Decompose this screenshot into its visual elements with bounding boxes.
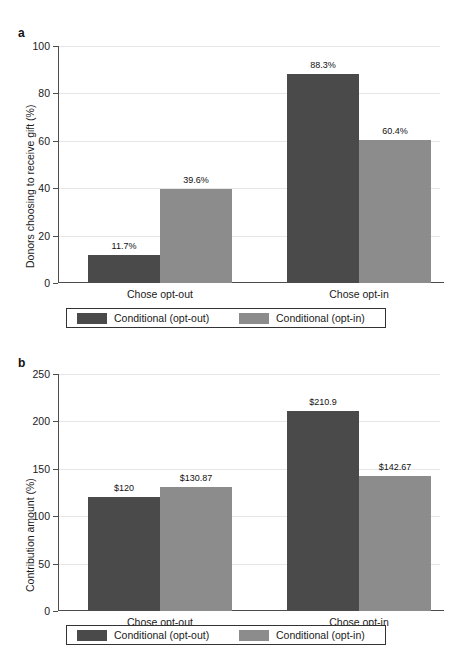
panel-a-category-labels: Chose opt-outChose opt-in xyxy=(58,288,440,302)
legend-item-conditional-opt-in: Conditional (opt-in) xyxy=(239,626,365,644)
y-tick-mark xyxy=(53,46,58,47)
y-tick-label: 100 xyxy=(32,40,50,52)
bar-value-label: 60.4% xyxy=(382,126,408,136)
y-tick-label: 50 xyxy=(38,558,50,570)
legend-swatch-dark-icon xyxy=(77,313,107,324)
bar-value-label: 11.7% xyxy=(112,241,137,251)
bar xyxy=(359,476,431,611)
gridline xyxy=(59,374,440,375)
panel-a-letter: a xyxy=(18,26,25,40)
bar-value-label: $130.87 xyxy=(180,473,213,483)
gridline xyxy=(59,46,440,47)
y-tick-label: 250 xyxy=(32,368,50,380)
y-tick-mark xyxy=(53,141,58,142)
bar-value-label: $210.9 xyxy=(309,397,337,407)
y-tick-mark xyxy=(53,93,58,94)
panel-a-y-axis-title: Donors choosing to receive gift (%) xyxy=(24,105,36,268)
legend-item-conditional-opt-in: Conditional (opt-in) xyxy=(239,309,365,327)
legend-label-conditional-opt-out: Conditional (opt-out) xyxy=(114,312,209,324)
panel-b-plot-area: 050100150200250 $120$130.87$210.9$142.67 xyxy=(58,374,440,611)
y-tick-label: 0 xyxy=(44,605,50,617)
y-tick-mark xyxy=(53,188,58,189)
x-category-label: Chose opt-in xyxy=(329,288,389,300)
y-tick-mark xyxy=(53,611,58,612)
bar-value-label: 39.6% xyxy=(183,175,209,185)
panel-a: a Donors choosing to receive gift (%) 02… xyxy=(0,0,451,330)
panel-a-y-axis-line xyxy=(58,46,59,283)
bar-value-label: 88.3% xyxy=(310,60,336,70)
y-tick-mark xyxy=(53,469,58,470)
bar xyxy=(88,255,160,283)
panel-b-legend: Conditional (opt-out) Conditional (opt-i… xyxy=(66,625,386,645)
y-tick-label: 200 xyxy=(32,415,50,427)
y-tick-mark xyxy=(53,516,58,517)
panel-a-legend: Conditional (opt-out) Conditional (opt-i… xyxy=(66,308,386,328)
y-tick-label: 20 xyxy=(38,230,50,242)
y-tick-mark xyxy=(53,283,58,284)
legend-label-conditional-opt-out: Conditional (opt-out) xyxy=(114,629,209,641)
y-tick-label: 40 xyxy=(38,182,50,194)
panel-b: b Contribution amount (%) 05010015020025… xyxy=(0,330,451,651)
legend-swatch-dark-icon xyxy=(77,630,107,641)
y-tick-mark xyxy=(53,236,58,237)
gridline xyxy=(59,93,440,94)
y-tick-label: 150 xyxy=(32,463,50,475)
y-tick-label: 80 xyxy=(38,87,50,99)
y-tick-mark xyxy=(53,374,58,375)
legend-swatch-light-icon xyxy=(239,313,269,324)
panel-b-y-axis-title: Contribution amount (%) xyxy=(24,478,36,592)
panel-b-y-axis-line xyxy=(58,374,59,611)
legend-item-conditional-opt-out: Conditional (opt-out) xyxy=(77,309,237,327)
bar xyxy=(287,411,359,611)
legend-label-conditional-opt-in: Conditional (opt-in) xyxy=(276,312,365,324)
x-category-label: Chose opt-out xyxy=(127,288,193,300)
y-tick-label: 100 xyxy=(32,510,50,522)
y-tick-mark xyxy=(53,421,58,422)
legend-swatch-light-icon xyxy=(239,630,269,641)
bar-value-label: $120 xyxy=(114,483,134,493)
y-tick-mark xyxy=(53,564,58,565)
y-tick-label: 60 xyxy=(38,135,50,147)
bar xyxy=(359,140,431,283)
bar-value-label: $142.67 xyxy=(379,462,412,472)
bar xyxy=(160,189,232,283)
panel-b-letter: b xyxy=(18,356,26,370)
bar xyxy=(160,487,232,611)
legend-item-conditional-opt-out: Conditional (opt-out) xyxy=(77,626,237,644)
legend-label-conditional-opt-in: Conditional (opt-in) xyxy=(276,629,365,641)
bar xyxy=(88,497,160,611)
gridline xyxy=(59,421,440,422)
bar xyxy=(287,74,359,283)
panel-a-plot-area: 020406080100 11.7%39.6%88.3%60.4% xyxy=(58,46,440,283)
y-tick-label: 0 xyxy=(44,277,50,289)
